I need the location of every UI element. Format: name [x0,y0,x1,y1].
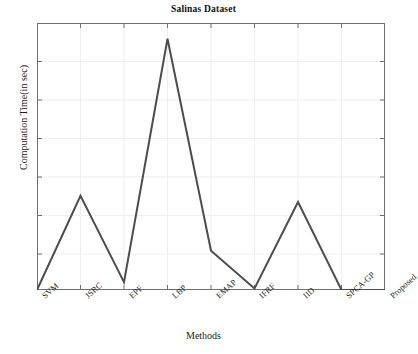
chart-title: Salinas Dataset [0,4,407,14]
y-axis-label: Computation Time(in sec) [18,13,29,223]
x-axis-label: Methods [0,330,407,341]
line-chart-svg [37,23,385,290]
plot-area [37,23,385,290]
x-tick-label-proposed: Proposed [388,272,418,301]
